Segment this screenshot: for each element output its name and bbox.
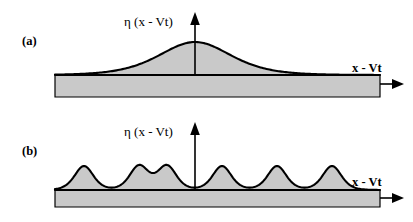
vertical-axis-arrow-a: [190, 12, 200, 25]
x-axis-label-a: x - Vt: [352, 61, 382, 75]
panel-label-a: (a): [22, 34, 37, 48]
panel-label-b: (b): [22, 144, 37, 158]
x-axis-label-b: x - Vt: [352, 175, 382, 189]
vertical-axis-arrow-b: [190, 122, 200, 135]
horizontal-axis-arrow-a: [392, 79, 404, 89]
solitary-wave-profile: [55, 42, 380, 75]
horizontal-axis-arrow-b: [392, 193, 404, 203]
fluid-layer-substrate-b: [55, 190, 380, 207]
cnoidal-wave-profile: [55, 165, 380, 190]
fluid-layer-substrate-a: [55, 75, 380, 97]
figure-container: η (x - Vt) x - Vt (a) η (x - Vt) x - Vt …: [0, 0, 413, 222]
panel-a-solitary-wave: η (x - Vt) x - Vt (a): [0, 0, 413, 110]
y-axis-label-b: η (x - Vt): [124, 124, 173, 139]
panel-b-cnoidal-wave: η (x - Vt) x - Vt (b): [0, 110, 413, 222]
y-axis-label-a: η (x - Vt): [124, 14, 173, 29]
